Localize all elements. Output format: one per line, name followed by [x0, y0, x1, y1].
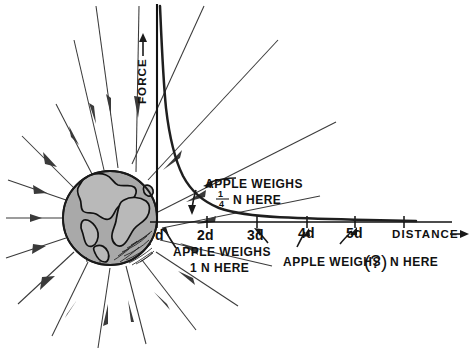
figure-canvas: FORCE DISTANCE d 2d 3d 4d 5d APPLE WEIGH: [0, 0, 476, 352]
x-axis-label: DISTANCE: [392, 228, 459, 240]
field-line: [52, 262, 88, 336]
field-line: [18, 252, 74, 304]
field-line: [148, 40, 278, 180]
fraction-denominator: 4: [219, 199, 224, 209]
annotation-weight-unknown-suffix: N HERE: [390, 255, 438, 269]
arrow-up-icon: [139, 33, 147, 56]
annotation-weight-quarter-suffix: N HERE: [233, 193, 281, 207]
annotation-weight-one-line1: APPLE WEIGHS: [173, 245, 271, 259]
x-tick-label-5d: 5d: [346, 225, 363, 241]
pointer-to-2d: [188, 190, 196, 215]
annotation-weight-unknown-value: (?): [364, 251, 387, 272]
fraction-numerator: 1: [218, 189, 223, 199]
field-line: [74, 40, 104, 170]
field-line: [22, 136, 74, 188]
field-line: [142, 260, 196, 330]
x-tick-label-4d: 4d: [298, 225, 315, 241]
x-tick-label-3d: 3d: [247, 227, 264, 243]
field-line: [6, 214, 62, 222]
field-line: [96, 6, 118, 168]
field-line: [98, 268, 110, 348]
field-line: [126, 266, 146, 344]
field-line: [8, 180, 66, 200]
field-line: [6, 238, 66, 258]
field-line: [56, 104, 92, 174]
annotation-weight-unknown: APPLE WEIGHS (?) N HERE: [283, 251, 438, 272]
y-axis-label: FORCE: [136, 58, 148, 104]
x-tick-label-d: d: [155, 227, 164, 243]
earth-globe: [63, 171, 157, 265]
annotation-weight-one-line2: 1 N HERE: [190, 261, 249, 275]
diagram-svg: FORCE DISTANCE d 2d 3d 4d 5d APPLE WEIGH: [0, 0, 476, 352]
annotation-weight-one: APPLE WEIGHS 1 N HERE: [173, 245, 271, 275]
x-tick-label-2d: 2d: [197, 227, 214, 243]
fraction-one-quarter: 1 4: [216, 189, 229, 209]
x-axis-label-group: DISTANCE: [392, 228, 469, 240]
x-tick-labels: d 2d 3d 4d 5d: [155, 225, 363, 243]
annotation-weight-quarter: APPLE WEIGHS 1 4 N HERE: [205, 177, 303, 209]
